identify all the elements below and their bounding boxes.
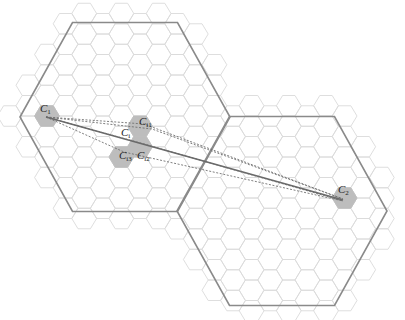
small-cell [239,301,264,320]
small-cell [295,167,320,188]
small-cell [72,167,97,188]
small-cell [128,14,153,35]
small-cell [239,219,264,240]
small-cell [183,126,208,147]
small-cell [53,198,78,219]
small-cell [72,85,97,106]
small-cell [183,106,208,127]
small-cell [53,55,78,76]
small-cell [146,24,171,45]
small-cell [128,96,153,117]
small-cell [258,290,283,311]
small-cell [314,260,339,281]
small-cell [183,208,208,229]
small-cell [221,167,246,188]
small-cell [239,239,264,260]
small-cell [72,65,97,86]
label-c1: C1 [40,102,51,116]
small-cell [35,126,60,147]
small-cell [165,219,190,240]
small-cell [90,75,115,96]
small-cell [295,147,320,168]
small-cell [183,188,208,209]
small-cell [221,126,246,147]
small-cell [109,65,134,86]
small-cell [295,229,320,250]
small-cell [202,178,227,199]
small-cell [221,208,246,229]
small-cell [258,249,283,270]
small-cell [72,3,97,24]
small-cell [109,167,134,188]
small-cell [221,188,246,209]
small-cell [332,208,357,229]
small-cell [53,157,78,178]
small-cell [128,75,153,96]
small-cell [72,147,97,168]
small-cell [165,198,190,219]
small-cell [109,24,134,45]
small-cell [90,55,115,76]
small-cell [276,239,301,260]
small-cell [258,188,283,209]
small-cell [146,188,171,209]
small-cell [369,229,394,250]
small-cell [165,14,190,35]
small-cell [276,96,301,117]
small-cell [109,3,134,24]
small-cell [221,270,246,291]
small-cell [239,116,264,137]
small-cell [258,126,283,147]
small-cell [109,188,134,209]
small-cell [239,198,264,219]
small-cell [146,167,171,188]
small-cell [314,116,339,137]
macro-cells [20,23,387,306]
small-cell [258,270,283,291]
small-cell [369,188,394,209]
small-cell [53,137,78,158]
small-cell [239,137,264,158]
small-cell [128,198,153,219]
small-cell [314,157,339,178]
small-cell [314,219,339,240]
small-cell [221,290,246,311]
small-cell [314,96,339,117]
small-cell [146,44,171,65]
small-cell [258,229,283,250]
small-cell [35,44,60,65]
small-cell [202,239,227,260]
small-cell-grid [0,3,394,320]
label-c2: C2 [338,183,349,197]
small-cell [221,147,246,168]
small-cell [202,116,227,137]
small-cell [202,137,227,158]
small-cell [295,249,320,270]
small-cell [295,290,320,311]
small-cell [295,270,320,291]
small-cell [332,229,357,250]
small-cell [332,106,357,127]
small-cell [35,167,60,188]
small-cell [314,280,339,301]
small-cell [0,106,22,127]
small-cell [109,85,134,106]
small-cell [258,208,283,229]
small-cell [165,96,190,117]
small-cell [202,75,227,96]
small-cell [239,260,264,281]
small-cell [165,75,190,96]
small-cell [72,24,97,45]
small-cell [276,137,301,158]
small-cell [314,239,339,260]
small-cell [239,280,264,301]
small-cell [183,65,208,86]
small-cell [128,178,153,199]
small-cell [53,75,78,96]
small-cell [276,157,301,178]
small-cell [276,219,301,240]
small-cell [295,208,320,229]
small-cell [90,96,115,117]
small-cell [128,34,153,55]
small-cell [276,198,301,219]
